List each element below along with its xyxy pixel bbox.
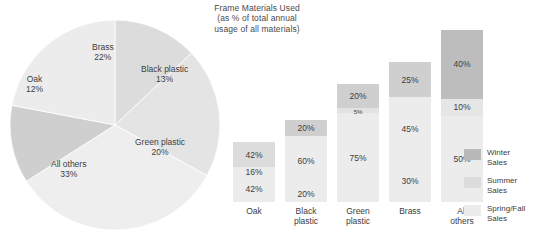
pie-label-name-all-others: All others xyxy=(51,159,86,169)
pie-label-value-black-plastic: 13% xyxy=(141,74,188,84)
bar-column-green-plastic: 20%5%75%Greenplastic xyxy=(337,84,379,202)
bar-category-line1-brass: Brass xyxy=(385,206,435,216)
legend-swatch-summer xyxy=(464,177,481,188)
legend-item-winter: WinterSales xyxy=(464,148,534,169)
pie-label-black-plastic: Black plastic13% xyxy=(141,64,188,85)
pie-label-value-green-plastic: 20% xyxy=(135,147,185,157)
bar-green-plastic: 20%5%75% xyxy=(337,84,379,202)
legend-label-line2-winter: Sales xyxy=(487,158,510,168)
legend-item-summer: SummerSales xyxy=(464,176,534,197)
bar-segment-green-plastic-2: 75% xyxy=(337,113,379,202)
bar-category-line1-oak: Oak xyxy=(229,206,279,216)
legend-swatch-winter xyxy=(464,149,481,160)
bar-segment-all-others-1: 10% xyxy=(441,99,483,116)
bar-black-plastic: 20%60%20% xyxy=(285,120,327,202)
pie-label-name-black-plastic: Black plastic xyxy=(141,64,188,74)
pie-label-value-brass: 22% xyxy=(92,52,114,62)
legend-label-line2-spring-fall: Sales xyxy=(487,214,525,224)
bar-category-label-black-plastic: Blackplastic xyxy=(281,206,331,226)
pie-label-name-green-plastic: Green plastic xyxy=(135,137,185,147)
bar-segment-brass-1: 45% xyxy=(389,97,431,160)
bar-segment-all-others-0: 40% xyxy=(441,30,483,99)
legend-item-spring-fall: Spring/FallSales xyxy=(464,204,534,225)
bar-segment-oak-0: 42% xyxy=(233,142,275,167)
legend-label-line2-summer: Sales xyxy=(487,186,517,196)
pie-label-oak: Oak12% xyxy=(26,74,43,95)
bar-category-label-green-plastic: Greenplastic xyxy=(333,206,383,226)
bar-column-brass: 25%45%30%Brass xyxy=(389,62,431,202)
bar-segment-oak-2: 42% xyxy=(233,177,275,202)
legend-label-line1-spring-fall: Spring/Fall xyxy=(487,204,525,214)
bar-category-line1-black-plastic: Black xyxy=(281,206,331,216)
bar-category-line1-green-plastic: Green xyxy=(333,206,383,216)
bar-segment-black-plastic-0: 20% xyxy=(285,120,327,136)
bar-category-line2-green-plastic: plastic xyxy=(333,216,383,226)
bar-category-label-brass: Brass xyxy=(385,206,435,216)
bar-column-oak: 42%16%42%Oak xyxy=(233,142,275,202)
legend-label-line1-winter: Winter xyxy=(487,148,510,158)
bar-column-black-plastic: 20%60%20%Blackplastic xyxy=(285,120,327,202)
pie-label-name-brass: Brass xyxy=(92,42,114,52)
bar-category-line2-black-plastic: plastic xyxy=(281,216,331,226)
bar-oak: 42%16%42% xyxy=(233,142,275,202)
bar-brass: 25%45%30% xyxy=(389,62,431,202)
legend-label-winter: WinterSales xyxy=(487,148,510,167)
stacked-bar-chart: 42%16%42%Oak20%60%20%Blackplastic20%5%75… xyxy=(228,18,468,236)
pie-label-green-plastic: Green plastic20% xyxy=(135,137,185,158)
pie-chart: Brass22%Black plastic13%Green plastic20%… xyxy=(8,17,223,232)
bar-category-label-oak: Oak xyxy=(229,206,279,216)
chart-canvas: Frame Materials Used (as % of total annu… xyxy=(0,0,537,236)
legend-label-summer: SummerSales xyxy=(487,176,517,195)
bar-segment-brass-0: 25% xyxy=(389,62,431,97)
legend-label-line1-summer: Summer xyxy=(487,176,517,186)
bar-segment-black-plastic-1: 60% xyxy=(285,136,327,185)
pie-label-all-others: All others33% xyxy=(51,159,86,180)
legend-swatch-spring-fall xyxy=(464,205,481,216)
pie-label-value-oak: 12% xyxy=(26,84,43,94)
chart-title-line-1: Frame Materials Used xyxy=(196,3,318,13)
legend-label-spring-fall: Spring/FallSales xyxy=(487,204,525,223)
bar-segment-brass-2: 30% xyxy=(389,160,431,202)
bar-segment-green-plastic-0: 20% xyxy=(337,84,379,108)
pie-chart-svg xyxy=(8,17,223,232)
bar-segment-oak-1: 16% xyxy=(233,167,275,177)
chart-legend: WinterSalesSummerSalesSpring/FallSales xyxy=(464,148,534,232)
pie-label-value-all-others: 33% xyxy=(51,169,86,179)
pie-label-brass: Brass22% xyxy=(92,42,114,63)
pie-label-name-oak: Oak xyxy=(26,74,43,84)
bar-segment-black-plastic-2: 20% xyxy=(285,186,327,202)
